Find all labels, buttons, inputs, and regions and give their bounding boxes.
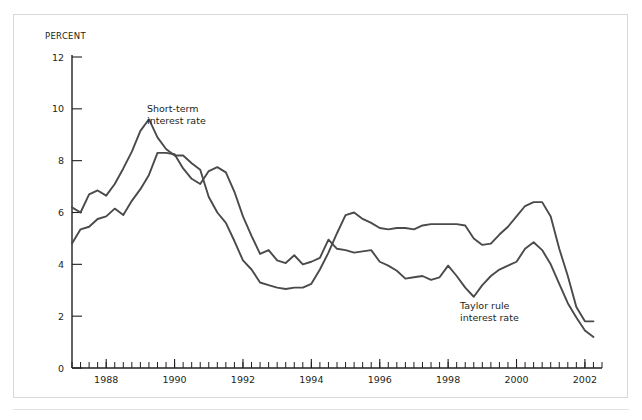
x-tick-label: 1996: [368, 374, 392, 385]
chart-plot-area: 024681012 198819901992199419961998200020…: [0, 0, 642, 420]
x-axis-tick-labels: 19881990199219941996199820002002: [94, 374, 597, 385]
y-tick-label: 10: [52, 103, 64, 114]
x-tick-label: 1998: [436, 374, 460, 385]
series-line-short-term: [72, 119, 593, 321]
annotation-taylor-rule-line1: Taylor rule: [459, 300, 510, 311]
x-tick-label: 2002: [573, 374, 597, 385]
chart-page: 024681012 198819901992199419961998200020…: [0, 0, 642, 420]
y-axis-title: PERCENT: [45, 31, 86, 41]
annotation-taylor-rule: Taylor rule interest rate: [459, 300, 519, 323]
series-line-taylor-rule: [72, 153, 593, 337]
y-tick-label: 6: [58, 207, 64, 218]
line-chart-svg: 024681012 198819901992199419961998200020…: [0, 0, 642, 420]
y-tick-label: 12: [52, 52, 64, 63]
y-tick-label: 8: [58, 155, 64, 166]
annotation-short-term: Short-term interest rate: [147, 103, 206, 126]
y-tick-label: 4: [58, 259, 64, 270]
annotation-short-term-line1: Short-term: [147, 103, 199, 114]
y-tick-label: 0: [58, 363, 64, 374]
annotation-taylor-rule-line2: interest rate: [460, 312, 519, 323]
x-tick-label: 1992: [231, 374, 255, 385]
x-axis-minor-ticks: [72, 362, 602, 368]
x-tick-label: 1994: [299, 374, 323, 385]
x-tick-label: 2000: [504, 374, 528, 385]
x-tick-label: 1990: [162, 374, 186, 385]
annotation-short-term-line2: interest rate: [147, 115, 206, 126]
y-axis-tick-labels: 024681012: [52, 52, 64, 374]
y-tick-label: 2: [58, 311, 64, 322]
x-tick-label: 1988: [94, 374, 118, 385]
